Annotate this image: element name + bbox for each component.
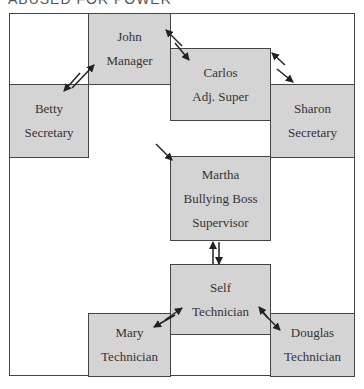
arrows-layer (0, 0, 364, 389)
arrow-sharon-to-carlos (272, 53, 285, 65)
arrow-carlos-to-john (166, 30, 182, 46)
arrow-mary-to-self (165, 308, 182, 320)
arrow-carlos-to-sharon (277, 69, 293, 82)
arrow-self-to-mary (154, 315, 175, 327)
arrow-into-martha (156, 144, 172, 160)
arrow-self-to-douglas (262, 312, 280, 330)
arrow-betty-to-john (72, 65, 94, 88)
